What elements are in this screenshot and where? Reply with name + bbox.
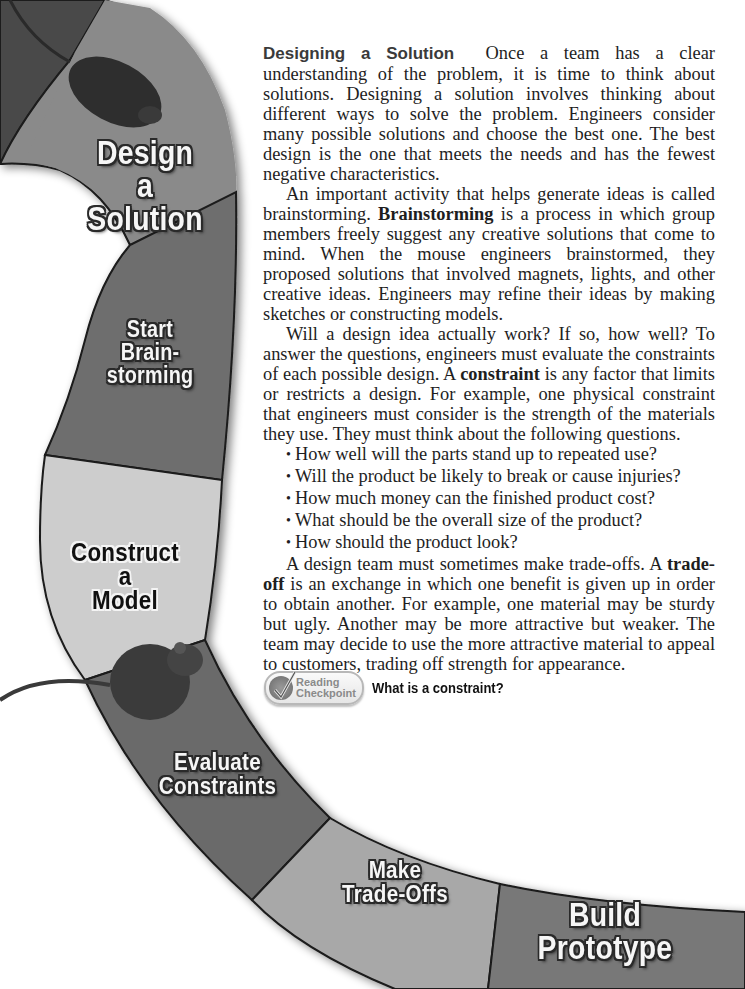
- list-item: Will the product be likely to break or c…: [286, 466, 715, 488]
- label-line: Build: [523, 898, 686, 931]
- label-line: Evaluate: [142, 750, 293, 774]
- list-item: How well will the parts stand up to repe…: [286, 444, 715, 466]
- label-line: Make: [331, 858, 460, 882]
- section-heading: Designing a Solution: [263, 44, 454, 63]
- segment-label-construct-model: Construct a Model: [61, 540, 190, 612]
- label-line: Brain-: [98, 341, 201, 364]
- list-item: How should the product look?: [286, 532, 715, 554]
- paragraph-designing-solution: Designing a Solution Once a team has a c…: [263, 43, 715, 184]
- article-body: Designing a Solution Once a team has a c…: [263, 43, 715, 674]
- paragraph-brainstorming: An important activity that helps generat…: [263, 184, 715, 324]
- segment-label-evaluate-constraints: Evaluate Constraints: [142, 750, 293, 798]
- list-item: How much money can the finished product …: [286, 488, 715, 510]
- segment-label-design-solution: Design a Solution: [81, 136, 210, 235]
- checkpoint-question: What is a constraint?: [372, 680, 504, 696]
- reading-checkpoint: Reading Checkpoint What is a constraint?: [264, 671, 514, 705]
- label-line: Design: [81, 136, 210, 169]
- paragraph-text: Once a team has a clear understanding of…: [263, 43, 715, 184]
- label-line: Model: [61, 588, 190, 612]
- label-line: storming: [98, 364, 201, 387]
- label-line: Start: [98, 318, 201, 341]
- badge-line: Checkpoint: [296, 688, 356, 699]
- paragraph-trade-off: A design team must sometimes make trade-…: [263, 554, 715, 674]
- paragraph-text: A design team must sometimes make trade-…: [286, 554, 667, 574]
- label-line: Prototype: [523, 931, 686, 964]
- list-item: What should be the overall size of the p…: [286, 510, 715, 532]
- label-line: Constraints: [142, 774, 293, 798]
- segment-label-make-trade-offs: Make Trade-Offs: [331, 858, 460, 906]
- checkmark-icon: [269, 676, 293, 700]
- constraint-questions-list: How well will the parts stand up to repe…: [263, 444, 715, 554]
- paragraph-constraint: Will a design idea actually work? If so,…: [263, 324, 715, 444]
- label-line: Solution: [81, 202, 210, 235]
- paragraph-text: is an exchange in which one benefit is g…: [263, 574, 715, 674]
- segment-label-build-prototype: Build Prototype: [523, 898, 686, 964]
- label-line: Trade-Offs: [331, 882, 460, 906]
- badge-text: Reading Checkpoint: [296, 677, 356, 699]
- segment-label-start-brainstorming: Start Brain- storming: [98, 318, 201, 387]
- label-line: a: [81, 169, 210, 202]
- reading-checkpoint-badge: Reading Checkpoint: [264, 671, 364, 705]
- key-term-brainstorming: Brainstorming: [378, 204, 493, 224]
- key-term-constraint: constraint: [460, 364, 540, 384]
